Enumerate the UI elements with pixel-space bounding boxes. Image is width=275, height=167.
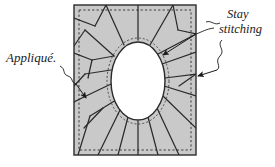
label-applique: Appliqué. <box>5 50 56 65</box>
label-stitching: stitching <box>219 22 262 36</box>
diagram-canvas: Appliqué. Stay stitching <box>0 0 275 167</box>
label-stay: Stay <box>227 7 249 21</box>
applique-diagram: Appliqué. Stay stitching <box>0 0 275 167</box>
oval-opening <box>111 42 165 120</box>
stay-label-squiggle <box>206 22 220 24</box>
stay-stitching-border-arrow <box>198 70 217 76</box>
leader-stay-to-border <box>198 40 222 76</box>
